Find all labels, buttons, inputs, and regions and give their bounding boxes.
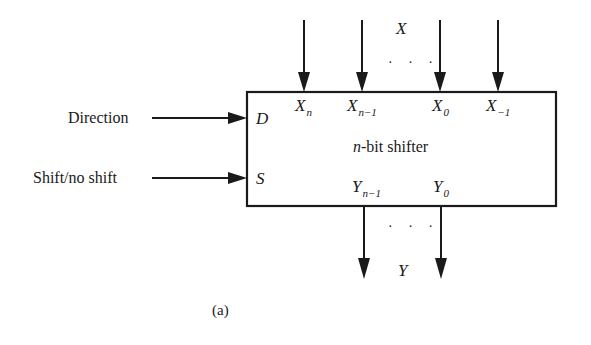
output-label-yn-1: Yn−1 <box>352 178 381 195</box>
input-label-x-1: X−1 <box>486 97 510 114</box>
output-arrow-yn-1 <box>358 206 370 279</box>
input-ellipsis: · · · <box>388 56 439 70</box>
port-s-label: S <box>256 170 265 187</box>
input-label-x0: X0 <box>432 97 449 114</box>
output-ellipsis: · · · <box>388 220 439 234</box>
port-d-label: D <box>256 110 268 127</box>
direction-label: Direction <box>68 110 128 126</box>
input-label-xn: Xn <box>295 97 312 114</box>
input-arrow-xn-1 <box>356 20 368 92</box>
output-arrow-y0 <box>435 206 447 279</box>
output-label-y0: Y0 <box>433 178 449 195</box>
direction-arrow <box>152 112 247 124</box>
input-arrow-xn <box>298 20 310 92</box>
shift-no-shift-label: Shift/no shift <box>33 170 117 186</box>
output-group-label: Y <box>398 262 407 279</box>
input-group-label: X <box>396 20 406 37</box>
shift-arrow <box>152 172 247 184</box>
block-title: n-bit shifter <box>353 139 428 155</box>
figure-caption: (a) <box>212 303 229 318</box>
input-label-xn-1: Xn−1 <box>347 97 377 114</box>
input-arrow-x-1 <box>492 20 504 92</box>
